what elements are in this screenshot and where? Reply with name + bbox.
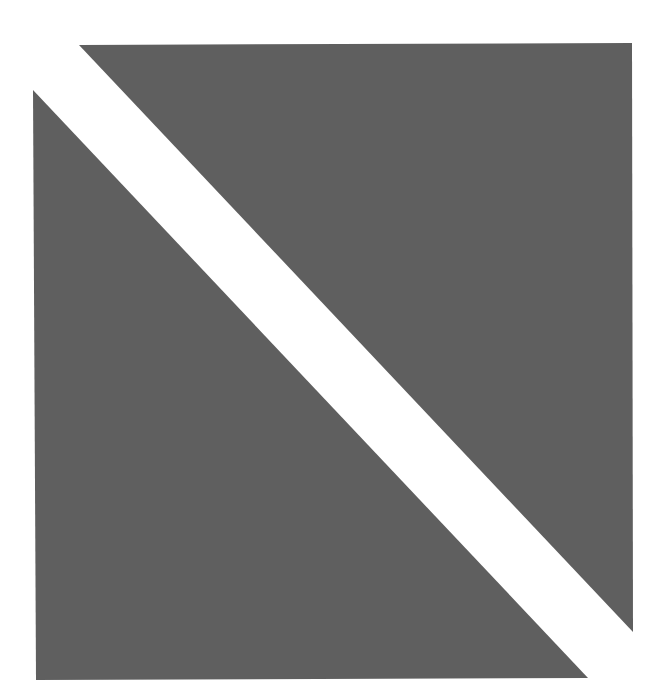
diagonal-split-graphic [0, 0, 672, 695]
graphic-canvas [0, 0, 672, 695]
